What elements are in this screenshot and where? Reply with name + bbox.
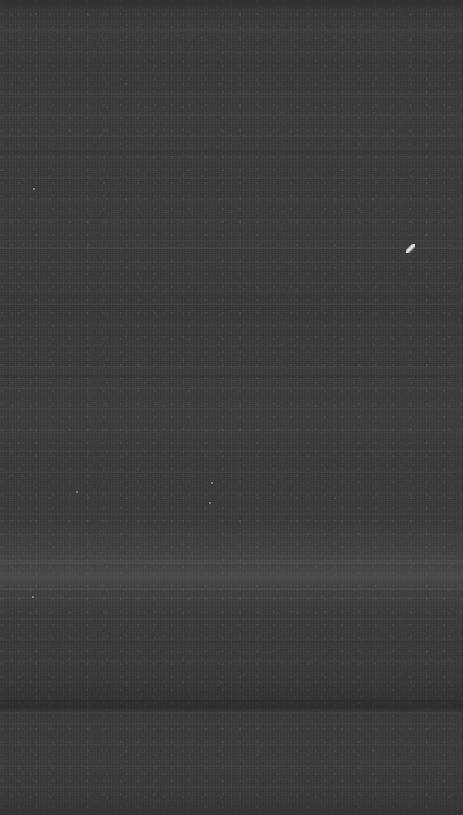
speck-left-low <box>32 596 34 598</box>
screen-capture-surface: blank-dark-screen-capture none <box>0 0 463 815</box>
speck-left-mid <box>76 491 78 493</box>
speck-mid-low <box>211 482 213 484</box>
cursor-artifact-icon <box>406 244 415 253</box>
noise-grain-texture <box>0 0 463 815</box>
speck-center <box>209 502 211 504</box>
speck-upper <box>33 188 35 190</box>
